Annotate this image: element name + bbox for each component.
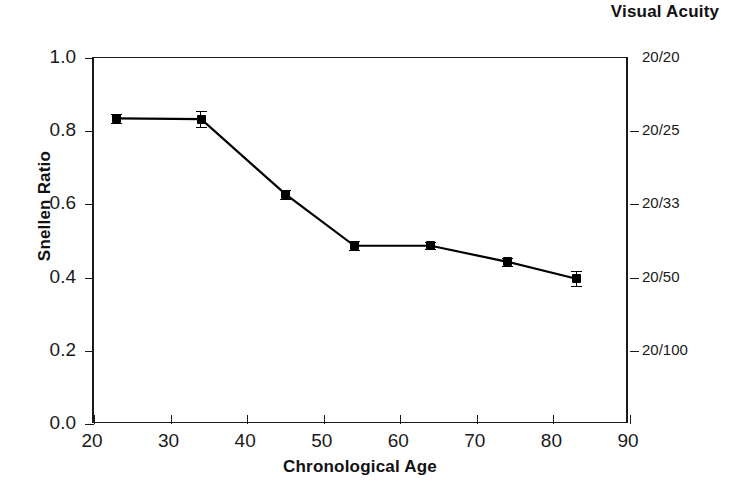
data-point <box>503 257 512 266</box>
error-bar-cap <box>111 123 122 124</box>
right-tick <box>630 278 639 279</box>
x-tick-label: 40 <box>225 431 265 450</box>
right-tick <box>630 351 639 352</box>
x-tick-label: 30 <box>149 431 189 450</box>
error-bar-cap <box>280 199 291 200</box>
error-bar-cap <box>196 111 207 112</box>
left-tick-label: 0.6 <box>30 193 76 212</box>
right-tick-label: 20/25 <box>642 122 722 137</box>
left-tick <box>85 424 94 425</box>
error-bar-cap <box>571 286 582 287</box>
data-point <box>197 115 206 124</box>
right-tick-label: 20/50 <box>642 269 722 284</box>
x-tick-label: 90 <box>608 431 648 450</box>
left-tick <box>85 278 94 279</box>
right-tick-label: 20/100 <box>642 342 722 357</box>
data-point <box>572 274 581 283</box>
x-tick-label: 60 <box>378 431 418 450</box>
chart-figure: Visual Acuity Snellen Ratio Chronologica… <box>0 0 745 500</box>
right-tick <box>630 204 639 205</box>
data-point <box>426 241 435 250</box>
error-bar-cap <box>196 127 207 128</box>
left-tick <box>85 58 94 59</box>
right-tick-label: 20/33 <box>642 195 722 210</box>
right-tick-label: 20/20 <box>642 49 722 64</box>
x-tick-label: 80 <box>531 431 571 450</box>
left-tick <box>85 131 94 132</box>
left-tick-label: 0.4 <box>30 267 76 286</box>
x-axis-title: Chronological Age <box>92 457 628 477</box>
right-tick <box>630 131 639 132</box>
left-tick-label: 0.0 <box>30 413 76 432</box>
left-tick <box>85 351 94 352</box>
data-point <box>281 190 290 199</box>
left-tick <box>85 204 94 205</box>
x-tick-label: 70 <box>455 431 495 450</box>
left-tick-label: 1.0 <box>30 47 76 66</box>
series-markers <box>94 58 630 424</box>
x-tick <box>630 415 631 424</box>
data-point <box>112 114 121 123</box>
left-tick-label: 0.2 <box>30 340 76 359</box>
data-point <box>350 241 359 250</box>
plot-area <box>92 57 628 423</box>
right-axis-title: Visual Acuity <box>586 2 744 22</box>
error-bar-cap <box>349 250 360 251</box>
x-tick-label: 50 <box>302 431 342 450</box>
left-tick-label: 0.8 <box>30 120 76 139</box>
x-tick-label: 20 <box>72 431 112 450</box>
error-bar-cap <box>571 271 582 272</box>
